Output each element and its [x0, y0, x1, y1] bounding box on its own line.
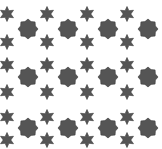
eight-point-burst-icon — [58, 19, 78, 39]
eight-point-burst-icon — [58, 118, 78, 138]
eight-point-burst-icon — [98, 19, 118, 39]
eight-point-burst-icon — [98, 67, 118, 87]
eight-point-burst-icon — [138, 118, 158, 138]
eight-point-burst-icon — [98, 118, 118, 138]
star-pattern-canvas — [0, 0, 162, 149]
eight-point-burst-icon — [18, 118, 38, 138]
eight-point-burst-icon — [138, 67, 158, 87]
eight-point-burst-icon — [18, 19, 38, 39]
eight-point-burst-icon — [58, 67, 78, 87]
eight-point-burst-icon — [18, 67, 38, 87]
eight-point-burst-icon — [138, 19, 158, 39]
